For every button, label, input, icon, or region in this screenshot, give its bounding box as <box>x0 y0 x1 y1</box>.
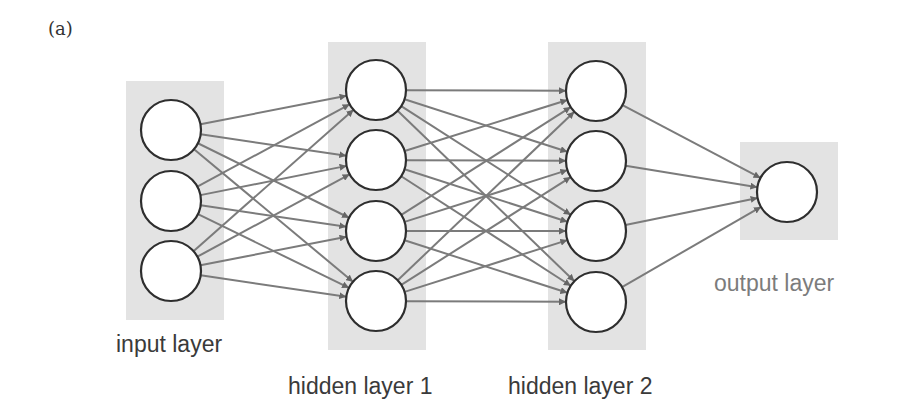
output-neuron-1 <box>757 162 817 222</box>
output-layer-label: output layer <box>714 270 834 297</box>
hidden1-neuron-4 <box>346 271 406 331</box>
hidden2-neuron-3 <box>566 201 626 261</box>
hidden-layer-1-label: hidden layer 1 <box>288 373 433 400</box>
connection-arrow <box>406 301 566 302</box>
layer-panels <box>126 42 838 350</box>
input-neuron-2 <box>141 171 201 231</box>
connection-arrow <box>406 90 566 91</box>
input-layer-label: input layer <box>116 331 222 358</box>
hidden1-neuron-1 <box>346 60 406 120</box>
hidden2-neuron-1 <box>566 61 626 121</box>
hidden2-neuron-2 <box>566 131 626 191</box>
hidden2-neuron-4 <box>566 272 626 332</box>
input-neuron-3 <box>141 241 201 301</box>
hidden1-neuron-3 <box>346 201 406 261</box>
input-neuron-1 <box>141 100 201 160</box>
connections <box>193 90 761 302</box>
hidden-layer-2-label: hidden layer 2 <box>508 373 653 400</box>
hidden1-neuron-2 <box>346 130 406 190</box>
